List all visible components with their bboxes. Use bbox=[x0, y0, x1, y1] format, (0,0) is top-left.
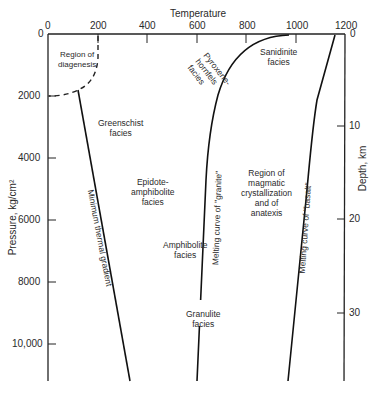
left-tick-4000: 4000 bbox=[18, 152, 40, 163]
left-tick-6000: 6000 bbox=[18, 214, 40, 225]
left-tick-2000: 2000 bbox=[18, 90, 40, 101]
left-axis-ticks bbox=[48, 96, 56, 344]
label-magmatic-crystallization-region: Region of magmatic crystallization and o… bbox=[241, 168, 292, 218]
left-tick-0: 0 bbox=[38, 28, 44, 39]
diagram-canvas bbox=[0, 0, 378, 396]
right-tick-30: 30 bbox=[349, 307, 360, 318]
label-amphibolite-facies: Amphibolite facies bbox=[163, 240, 207, 260]
label-greenschist-facies: Greenschist facies bbox=[98, 118, 143, 138]
top-tick-800: 800 bbox=[239, 20, 256, 31]
right-tick-0: 0 bbox=[350, 28, 356, 39]
top-tick-400: 400 bbox=[139, 20, 156, 31]
label-region-of-diagenesis: Region of diagenesis bbox=[58, 50, 96, 70]
label-granulite-facies: Granulite facies bbox=[186, 309, 221, 329]
top-tick-200: 200 bbox=[90, 20, 107, 31]
right-axis-line bbox=[344, 34, 345, 381]
label-epidote-amphibolite-facies: Epidote- amphibolite facies bbox=[131, 177, 174, 207]
left-axis-title: Pressure, kg/cm² bbox=[7, 168, 18, 268]
left-tick-10000: 10,000 bbox=[12, 338, 43, 349]
left-tick-8000: 8000 bbox=[18, 276, 40, 287]
top-tick-1000: 1000 bbox=[286, 20, 308, 31]
top-axis-title: Temperature bbox=[170, 8, 226, 19]
right-tick-20: 20 bbox=[349, 213, 360, 224]
label-sanidinite-facies: Sanidinite facies bbox=[260, 47, 297, 67]
right-axis-title: Depth, km bbox=[357, 134, 368, 204]
basalt-melting-curve bbox=[288, 35, 335, 381]
right-tick-10: 10 bbox=[349, 120, 360, 131]
top-tick-0: 0 bbox=[45, 20, 51, 31]
top-tick-600: 600 bbox=[189, 20, 206, 31]
